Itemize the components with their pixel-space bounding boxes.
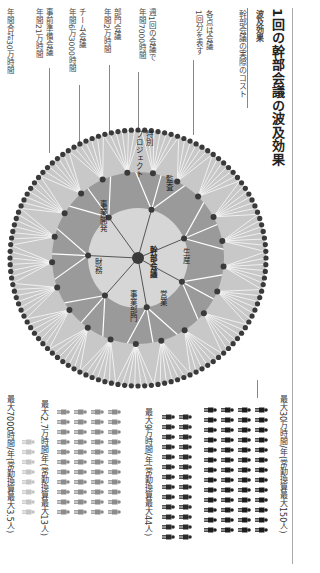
person-icon bbox=[22, 441, 35, 449]
person-icon bbox=[91, 501, 104, 509]
person-icon bbox=[221, 489, 234, 497]
person-icon bbox=[179, 436, 192, 444]
group3-label: 最大2.7万時間/年(常勤換算最大13人) bbox=[38, 400, 49, 536]
person-icon bbox=[179, 406, 192, 414]
person-icon bbox=[255, 469, 268, 477]
person-icon bbox=[221, 419, 234, 427]
person-icon bbox=[238, 459, 251, 467]
person-icon bbox=[238, 439, 251, 447]
group1-icons bbox=[202, 398, 272, 538]
person-icon bbox=[162, 436, 175, 444]
center-meeting-dot bbox=[132, 252, 144, 264]
person-icon bbox=[91, 451, 104, 459]
person-icon bbox=[221, 499, 234, 507]
person-icon bbox=[108, 471, 121, 479]
person-icon bbox=[238, 479, 251, 487]
person-icon bbox=[179, 426, 192, 434]
person-icon bbox=[57, 491, 70, 499]
person-icon bbox=[57, 421, 70, 429]
person-icon bbox=[91, 431, 104, 439]
person-icon bbox=[57, 471, 70, 479]
group1-label: 最大30万時間/年(常勤換算最大150人) bbox=[277, 395, 288, 533]
person-icon bbox=[221, 519, 234, 527]
dept-bizdev: 事業開発 bbox=[97, 200, 107, 232]
person-icon bbox=[162, 426, 175, 434]
person-icon bbox=[255, 439, 268, 447]
person-icon bbox=[108, 501, 121, 509]
person-icon bbox=[162, 476, 175, 484]
person-icon bbox=[74, 431, 87, 439]
person-icon bbox=[204, 399, 217, 407]
person-icon bbox=[238, 519, 251, 527]
group2-icons bbox=[160, 405, 202, 545]
person-icon bbox=[74, 401, 87, 409]
person-icon bbox=[238, 509, 251, 517]
person-icon bbox=[255, 419, 268, 427]
person-icon bbox=[57, 451, 70, 459]
person-icon bbox=[22, 481, 35, 489]
person-icon bbox=[204, 509, 217, 517]
person-icon bbox=[91, 421, 104, 429]
person-icon bbox=[74, 421, 87, 429]
person-icon bbox=[22, 431, 35, 439]
person-icon bbox=[204, 469, 217, 477]
person-icon bbox=[238, 489, 251, 497]
group2-label: 最大9万時間/年(常勤換算最大44人) bbox=[142, 408, 153, 536]
dept-special-project: 特別プロジェクト bbox=[133, 130, 153, 178]
person-icon bbox=[238, 399, 251, 407]
person-icon bbox=[91, 461, 104, 469]
person-icon bbox=[57, 401, 70, 409]
group3-icons bbox=[55, 400, 135, 530]
person-icon bbox=[255, 459, 268, 467]
dept-production: 生産 bbox=[180, 248, 190, 264]
person-icon bbox=[179, 506, 192, 514]
person-icon bbox=[74, 411, 87, 419]
person-icon bbox=[204, 449, 217, 457]
person-icon bbox=[108, 441, 121, 449]
person-icon bbox=[74, 471, 87, 479]
person-icon bbox=[162, 466, 175, 474]
person-icon bbox=[108, 481, 121, 489]
person-icon bbox=[57, 411, 70, 419]
person-icon bbox=[255, 489, 268, 497]
person-icon bbox=[162, 406, 175, 414]
person-icon bbox=[204, 479, 217, 487]
person-icon bbox=[255, 499, 268, 507]
group1-leader bbox=[257, 380, 258, 398]
person-icon bbox=[108, 461, 121, 469]
person-icon bbox=[57, 501, 70, 509]
dept-business: 事業部門 bbox=[127, 290, 137, 322]
person-icon bbox=[162, 416, 175, 424]
person-icon bbox=[162, 446, 175, 454]
person-icon bbox=[162, 486, 175, 494]
person-icon bbox=[162, 506, 175, 514]
person-icon bbox=[74, 461, 87, 469]
person-icon bbox=[204, 519, 217, 527]
person-icon bbox=[204, 499, 217, 507]
person-icon bbox=[221, 479, 234, 487]
person-icon bbox=[91, 491, 104, 499]
person-icon bbox=[238, 409, 251, 417]
center-label: 幹部会議 bbox=[147, 246, 157, 278]
person-icon bbox=[255, 449, 268, 457]
person-icon bbox=[91, 441, 104, 449]
person-icon bbox=[179, 466, 192, 474]
person-icon bbox=[179, 446, 192, 454]
person-icon bbox=[179, 526, 192, 534]
person-icon bbox=[204, 459, 217, 467]
person-icon bbox=[22, 501, 35, 509]
person-icon bbox=[74, 441, 87, 449]
person-icon bbox=[238, 449, 251, 457]
person-icon bbox=[221, 449, 234, 457]
dept-audit: 監査 bbox=[163, 175, 173, 191]
person-icon bbox=[108, 431, 121, 439]
person-icon bbox=[221, 399, 234, 407]
person-icon bbox=[204, 409, 217, 417]
person-icon bbox=[108, 411, 121, 419]
person-icon bbox=[74, 481, 87, 489]
person-icon bbox=[162, 456, 175, 464]
person-icon bbox=[204, 419, 217, 427]
person-icon bbox=[255, 479, 268, 487]
person-icon bbox=[238, 499, 251, 507]
person-icon bbox=[57, 441, 70, 449]
